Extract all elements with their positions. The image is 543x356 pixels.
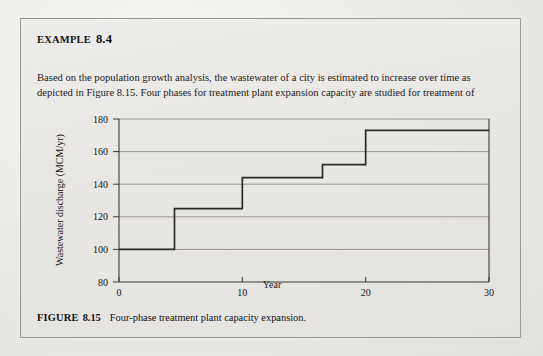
figure-caption: FIGURE8.15Four-phase treatment plant cap… bbox=[37, 312, 306, 323]
step-chart: 180 160 140 120 100 80 0 10 20 30 bbox=[37, 97, 507, 302]
scanned-page: EXAMPLE8.4 Based on the population growt… bbox=[0, 0, 543, 356]
y-tick-label-160: 160 bbox=[93, 146, 108, 157]
figure-chart: 180 160 140 120 100 80 0 10 20 30 bbox=[37, 97, 507, 302]
figure-caption-text: Four-phase treatment plant capacity expa… bbox=[110, 312, 306, 323]
example-box: EXAMPLE8.4 Based on the population growt… bbox=[20, 18, 521, 338]
y-tick-label-180: 180 bbox=[93, 114, 108, 125]
y-tick-label-140: 140 bbox=[93, 179, 108, 190]
figure-caption-label: FIGURE bbox=[37, 312, 79, 323]
chart-axes bbox=[119, 119, 489, 282]
x-axis-title: Year bbox=[37, 279, 507, 290]
y-axis-title: Wastewater discharge (MCM/yr) bbox=[54, 134, 66, 266]
y-tick-label-120: 120 bbox=[93, 211, 108, 222]
example-label: EXAMPLE bbox=[37, 34, 91, 45]
example-body-text: Based on the population growth analysis,… bbox=[37, 70, 507, 100]
y-axis-ticks bbox=[113, 119, 119, 282]
example-number: 8.4 bbox=[96, 32, 112, 46]
y-tick-label-100: 100 bbox=[93, 244, 108, 255]
step-data-line bbox=[119, 130, 489, 249]
figure-caption-number: 8.15 bbox=[83, 312, 101, 323]
example-heading: EXAMPLE8.4 bbox=[37, 32, 112, 47]
